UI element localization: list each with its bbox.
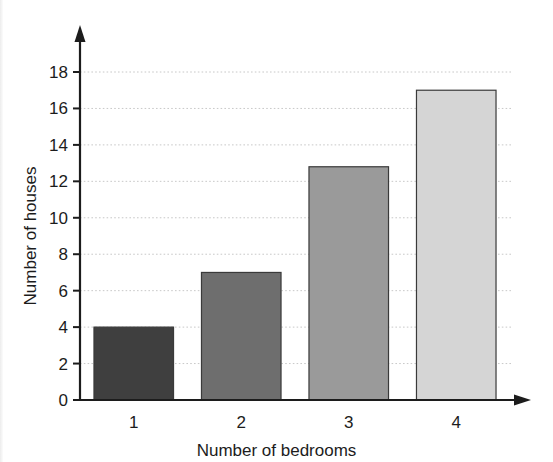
y-tick-label: 18 — [49, 64, 68, 81]
x-tick-label: 4 — [452, 414, 461, 431]
x-tick-label: 1 — [129, 414, 138, 431]
y-tick-label: 14 — [49, 136, 68, 153]
y-tick-label: 8 — [59, 246, 68, 263]
bar-chart — [0, 0, 553, 462]
bar — [201, 272, 281, 400]
chart-page: 024681012141618 1234 Number of houses Nu… — [0, 0, 553, 462]
y-tick-label: 12 — [49, 173, 68, 190]
bar — [94, 327, 174, 400]
x-axis-arrowhead — [514, 395, 531, 406]
bar — [416, 90, 496, 400]
bar-group — [94, 90, 496, 400]
y-axis-title: Number of houses — [22, 167, 39, 306]
y-tick-label: 2 — [59, 355, 68, 372]
x-axis-title: Number of bedrooms — [0, 442, 553, 459]
y-tick-label: 10 — [49, 209, 68, 226]
x-tick-label: 2 — [237, 414, 246, 431]
y-axis-arrowhead — [75, 25, 86, 42]
y-tick-label: 16 — [49, 100, 68, 117]
y-tick-label: 6 — [59, 282, 68, 299]
bar — [309, 167, 389, 400]
y-tick-label: 4 — [59, 319, 68, 336]
y-tick-label: 0 — [59, 392, 68, 409]
x-tick-label: 3 — [344, 414, 353, 431]
